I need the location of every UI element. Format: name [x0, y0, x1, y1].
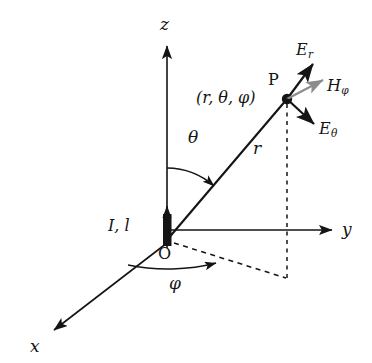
point-coordinates-label: (r, θ, φ)	[196, 90, 256, 106]
radius-label-r: r	[253, 140, 261, 157]
axis-label-x: x	[30, 338, 40, 355]
axis-label-y: y	[342, 221, 352, 238]
axis-x-line	[54, 243, 167, 330]
vector-label-hphi-base: H	[327, 76, 341, 95]
vector-label-etheta: Eθ	[319, 121, 337, 139]
vector-label-er-base: E	[296, 40, 308, 59]
origin-label: O	[158, 246, 171, 262]
vector-label-hphi: Hφ	[327, 78, 349, 96]
axis-label-z: z	[160, 16, 169, 33]
vector-label-er-sub: r	[308, 48, 313, 60]
radius-line-r	[167, 99, 287, 240]
vector-er-arrow	[287, 64, 313, 99]
point-label-p: P	[268, 72, 279, 88]
angle-label-theta: θ	[188, 129, 198, 146]
coordinate-diagram	[0, 0, 372, 363]
angle-arc-theta	[167, 168, 214, 186]
vector-hphi-arrow	[287, 80, 323, 99]
angle-label-phi: φ	[169, 275, 181, 292]
angle-arc-phi	[128, 263, 216, 269]
figure-canvas: z y x I, l O θ φ (r, θ, φ) P r Er Hφ Eθ	[0, 0, 372, 363]
vector-label-er: Er	[296, 42, 313, 60]
projection-line-ground	[174, 243, 286, 278]
axis-x	[54, 243, 167, 330]
source-label: I, l	[108, 218, 130, 234]
vector-etheta-arrow	[287, 99, 314, 124]
dipole-element	[163, 206, 172, 246]
vector-label-hphi-sub: φ	[341, 84, 348, 96]
vector-label-etheta-base: E	[319, 119, 331, 138]
vector-label-etheta-sub: θ	[331, 127, 337, 139]
